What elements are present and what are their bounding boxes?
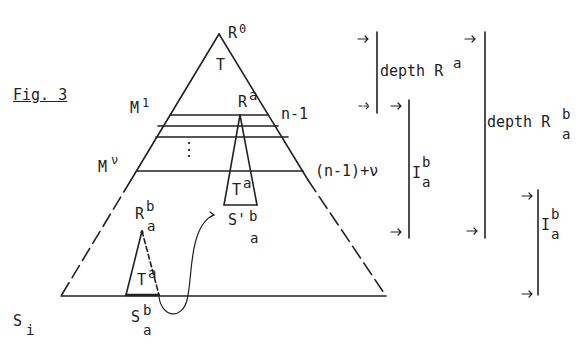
level-mnu-label: M — [98, 160, 107, 175]
subtree-root-label-sup: a — [249, 88, 257, 102]
subtree-root-dot — [140, 230, 143, 233]
level-mnu-sup: ν — [111, 154, 118, 166]
lower-subtree-root-sup: b — [146, 199, 154, 213]
arrow-icon — [358, 36, 368, 42]
bracket-iab-upper-label: I — [412, 166, 421, 181]
upper-subtree-label: T — [232, 183, 241, 198]
arrow-icon — [465, 36, 475, 42]
lower-subtree-root-label: R — [135, 207, 144, 222]
upper-subtree-base-sub: a — [250, 231, 258, 245]
base-label-sub: i — [26, 323, 34, 337]
lower-subtree-base-label: S — [131, 310, 140, 325]
upper-subtree-right-edge — [240, 115, 257, 205]
upper-subtree-label-sup: a — [243, 176, 251, 190]
level-n-minus-1-plus-nu-label: (n-1)+ν — [315, 164, 378, 179]
lower-subtree-root-sub: a — [147, 219, 155, 233]
bracket-iab-upper-sub: a — [422, 175, 430, 189]
figure-caption: Fig. 3 — [13, 88, 67, 103]
lower-subtree-base-sub: a — [143, 323, 151, 337]
lower-subtree-base-sup: b — [143, 303, 151, 317]
level-m1-sup: 1 — [142, 97, 149, 109]
lower-subtree-label: T — [137, 273, 146, 288]
tree-label: T — [216, 58, 225, 73]
bracket-iab-lower-label: I — [541, 218, 550, 233]
level-m1-label: M — [130, 101, 139, 116]
level-ellipsis: ⋮ — [180, 140, 198, 158]
bracket-iab-lower-sup: b — [551, 207, 559, 221]
arrow-icon — [391, 103, 401, 109]
mapping-curve-arrowhead — [210, 212, 214, 217]
bracket-depth-rab-sup: b — [562, 107, 570, 121]
arrow-icon — [391, 229, 401, 235]
diagram-canvas — [0, 0, 588, 345]
main-triangle-left-edge-dashed — [61, 180, 131, 296]
mapping-curve — [159, 215, 214, 314]
bracket-depth-rab-sub: a — [562, 127, 570, 141]
bracket-depth-rab-label: depth R — [487, 115, 550, 130]
arrow-icon — [522, 193, 532, 199]
upper-subtree-base-sup: b — [249, 209, 257, 223]
bracket-iab-lower-sub: a — [551, 227, 559, 241]
level-n-minus-1-label: n-1 — [281, 107, 308, 122]
root-label-sup: 0 — [239, 23, 246, 35]
root-label: R — [228, 26, 237, 41]
bracket-iab-upper-sup: b — [422, 155, 430, 169]
bracket-depth-ra-sup: a — [453, 56, 461, 70]
main-triangle-right-edge-dashed — [308, 180, 386, 296]
arrow-icon — [359, 103, 369, 109]
lower-subtree-label-sup: a — [148, 266, 156, 280]
arrow-icon — [467, 228, 477, 234]
arrow-icon — [522, 291, 532, 297]
bracket-depth-ra-label: depth R — [380, 64, 443, 79]
subtree-root-label: R — [238, 95, 247, 110]
upper-subtree-base-label: S' — [228, 213, 246, 228]
base-label: S — [13, 314, 22, 329]
